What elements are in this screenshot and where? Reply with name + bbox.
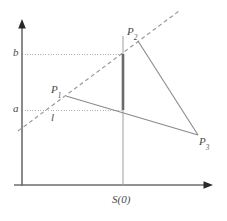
point-label-p3-base: P	[199, 135, 206, 147]
line-label-l: l	[51, 112, 54, 123]
edge-p1-p3	[66, 96, 198, 135]
point-label-p2-base: P	[127, 25, 134, 37]
point-label-p1-base: P	[51, 83, 58, 95]
y-tick-label-a: a	[13, 103, 19, 114]
point-label-p3-subscript: 3	[206, 144, 210, 152]
x-axis-arrowhead	[204, 181, 214, 189]
point-label-p2: P2	[127, 26, 137, 40]
geometry-figure: b a l P1 P2 P3 S(0)	[0, 0, 227, 221]
dashed-line-l	[18, 11, 179, 131]
x-tick-label-s0: S(0)	[112, 194, 130, 205]
point-label-p3: P3	[199, 136, 209, 150]
y-axis-arrowhead	[18, 19, 26, 29]
point-label-p1: P1	[51, 84, 61, 98]
figure-canvas	[0, 0, 227, 221]
y-tick-label-b: b	[13, 47, 19, 58]
point-label-p2-subscript: 2	[134, 34, 138, 42]
point-label-p1-subscript: 1	[58, 92, 62, 100]
edge-p2-p3	[138, 41, 198, 135]
